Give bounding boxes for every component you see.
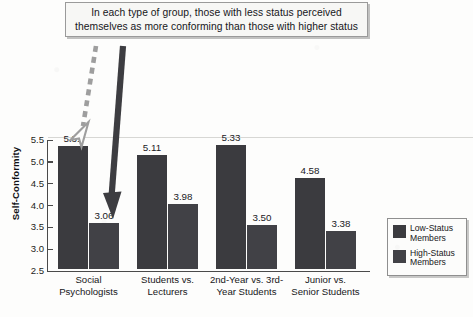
- bar-high-status: [247, 225, 277, 269]
- bar-value-label: 5.11: [133, 142, 171, 153]
- bar-low-status: [295, 178, 325, 269]
- bar-low-status: [216, 145, 246, 269]
- y-axis-tick-label: 4.0: [18, 200, 44, 211]
- legend-label-high-status: High-Status Members: [410, 249, 455, 269]
- y-axis-tick-label: 3.0: [18, 243, 44, 254]
- bar-value-label: 3.98: [164, 191, 202, 202]
- y-axis-tick-label: 3.5: [18, 221, 44, 232]
- legend-swatch-high-status: [393, 250, 406, 263]
- bar-high-status: [89, 223, 119, 269]
- legend-item-high-status: High-Status Members: [393, 249, 462, 269]
- legend-label-high-status-line2: Members: [410, 258, 455, 268]
- bar-value-label: 4.58: [291, 165, 329, 176]
- bar-value-label: 5.33: [212, 132, 250, 143]
- y-axis-tick-label: 4.5: [18, 178, 44, 189]
- bar-high-status: [326, 231, 356, 269]
- bar-low-status: [58, 146, 88, 269]
- bar-value-label: 3.50: [243, 212, 281, 223]
- category-label-line: Junior vs.: [278, 274, 373, 286]
- y-axis-tick-labels: 5.55.04.54.03.53.02.5: [14, 0, 44, 317]
- legend-swatch-low-status: [393, 225, 406, 238]
- annotation-line-2: themselves as more conforming than those…: [75, 20, 358, 34]
- annotation-line-1: In each type of group, those with less s…: [91, 6, 342, 20]
- bar-high-status: [168, 204, 198, 269]
- legend-label-low-status: Low-Status Members: [410, 224, 453, 244]
- bar-value-label: 5.31: [54, 133, 92, 144]
- y-axis-tick-label: 5.0: [18, 156, 44, 167]
- bar-value-label: 3.38: [322, 218, 360, 229]
- legend-item-low-status: Low-Status Members: [393, 224, 462, 244]
- annotation-callout: In each type of group, those with less s…: [65, 2, 368, 37]
- plot-area: 5.313.065.113.985.333.504.583.38: [48, 138, 370, 271]
- legend-label-low-status-line2: Members: [410, 234, 453, 244]
- y-axis-tick-label: 5.5: [18, 134, 44, 145]
- x-axis-line: [47, 271, 370, 272]
- dashed-arrow-to-low-status-bar: [71, 46, 97, 147]
- category-label-line: Senior Students: [278, 286, 373, 298]
- bar-low-status: [137, 155, 167, 269]
- chart-page: In each type of group, those with less s…: [0, 0, 473, 317]
- x-axis-category-label: Junior vs.Senior Students: [278, 274, 373, 297]
- legend: Low-Status Members High-Status Members: [387, 218, 467, 276]
- bar-value-label: 3.06: [85, 210, 123, 221]
